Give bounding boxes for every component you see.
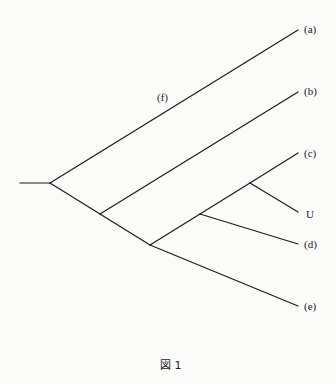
tree-canvas: (a) (b) (c) U (d) (e) (f) 図 1 [0, 0, 336, 384]
branch-node2-node3 [100, 214, 150, 245]
tip-label-b: (b) [304, 85, 317, 98]
tip-label-d: (d) [304, 238, 317, 251]
internal-label-f: (f) [157, 91, 168, 104]
branch-to-c [250, 153, 298, 183]
branch-node4-node5 [200, 183, 250, 214]
figure-caption: 図 1 [160, 359, 182, 372]
tip-label-U: U [306, 208, 314, 220]
branch-to-b [100, 92, 298, 214]
phylogenetic-tree-figure: (a) (b) (c) U (d) (e) (f) 図 1 [0, 0, 336, 384]
branch-to-U [250, 183, 298, 212]
tip-label-a: (a) [304, 23, 317, 36]
tip-label-e: (e) [304, 300, 317, 313]
tip-label-c: (c) [304, 147, 317, 160]
branch-to-d [200, 214, 298, 244]
branch-node1-node2 [50, 183, 100, 214]
branch-to-e [150, 245, 298, 306]
branch-node3-node4 [150, 214, 200, 245]
branch-to-a [50, 30, 298, 183]
